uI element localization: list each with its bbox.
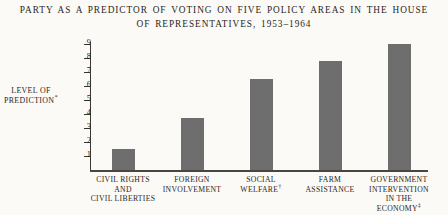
bar [319, 61, 342, 170]
y-axis-tick-label: .2 [71, 137, 91, 145]
y-axis-tick-label: .8 [71, 53, 91, 61]
y-axis-tick-row: .1 [56, 156, 91, 157]
y-axis-tick-label: .9 [71, 39, 91, 47]
x-axis-label-line: Involvement [163, 185, 222, 194]
x-axis-label-line: Welfare [240, 185, 278, 194]
y-axis-tick-row: .9 [56, 44, 91, 45]
x-axis-label-line: Civil Liberties [91, 194, 156, 203]
x-axis-label-line: Assistance [306, 185, 355, 194]
y-axis-tick-label: .7 [71, 67, 91, 75]
y-axis-caption: Level of Prediction* [2, 86, 60, 105]
bar [388, 44, 411, 170]
x-axis-label-line: Farm [319, 175, 341, 184]
x-axis-label-line: Intervention [369, 185, 429, 194]
y-axis-tick-row: .7 [56, 72, 91, 73]
y-axis-tick-label: .5 [71, 95, 91, 103]
y-axis-tick-label: .3 [71, 123, 91, 131]
y-axis-caption-footnote-marker: * [54, 93, 58, 100]
y-axis-tick-row: .8 [56, 58, 91, 59]
x-axis-label-line: and [114, 185, 132, 194]
y-axis-caption-line-1: Level of [11, 86, 51, 95]
x-axis-label: GovernmentInterventionin theEconomy‡ [353, 175, 445, 213]
y-axis-tick-row: .2 [56, 142, 91, 143]
x-axis-label-line: in the [386, 194, 413, 203]
x-axis-label-footnote-marker: † [278, 182, 282, 189]
x-axis-label-footnote-marker: ‡ [418, 201, 422, 208]
x-axis-label-line: Social [246, 175, 276, 184]
x-axis-label-line: Government [371, 175, 428, 184]
y-axis-caption-line-2: Prediction [4, 96, 54, 105]
y-axis-tick-row: .4 [56, 114, 91, 115]
y-axis-tick-row: .3 [56, 128, 91, 129]
bar [250, 79, 273, 170]
bar [112, 149, 135, 170]
x-axis-label-line: Civil Rights [96, 175, 150, 184]
y-axis-tick-row: .5 [56, 100, 91, 101]
plot-area: .9.8.7.6.5.4.3.2.1 Level of Prediction* … [0, 0, 448, 215]
x-axis-label-line: Foreign [174, 175, 209, 184]
y-axis-tick-row: .6 [56, 86, 91, 87]
chart-figure: Party as a Predictor of Voting on Five P… [0, 0, 448, 215]
y-axis-tick-label: .4 [71, 109, 91, 117]
y-axis-tick-label: .1 [71, 151, 91, 159]
bar [181, 118, 204, 171]
x-axis-label-line: Economy [377, 204, 418, 213]
x-axis-baseline [90, 170, 428, 172]
y-axis-tick-label: .6 [71, 81, 91, 89]
